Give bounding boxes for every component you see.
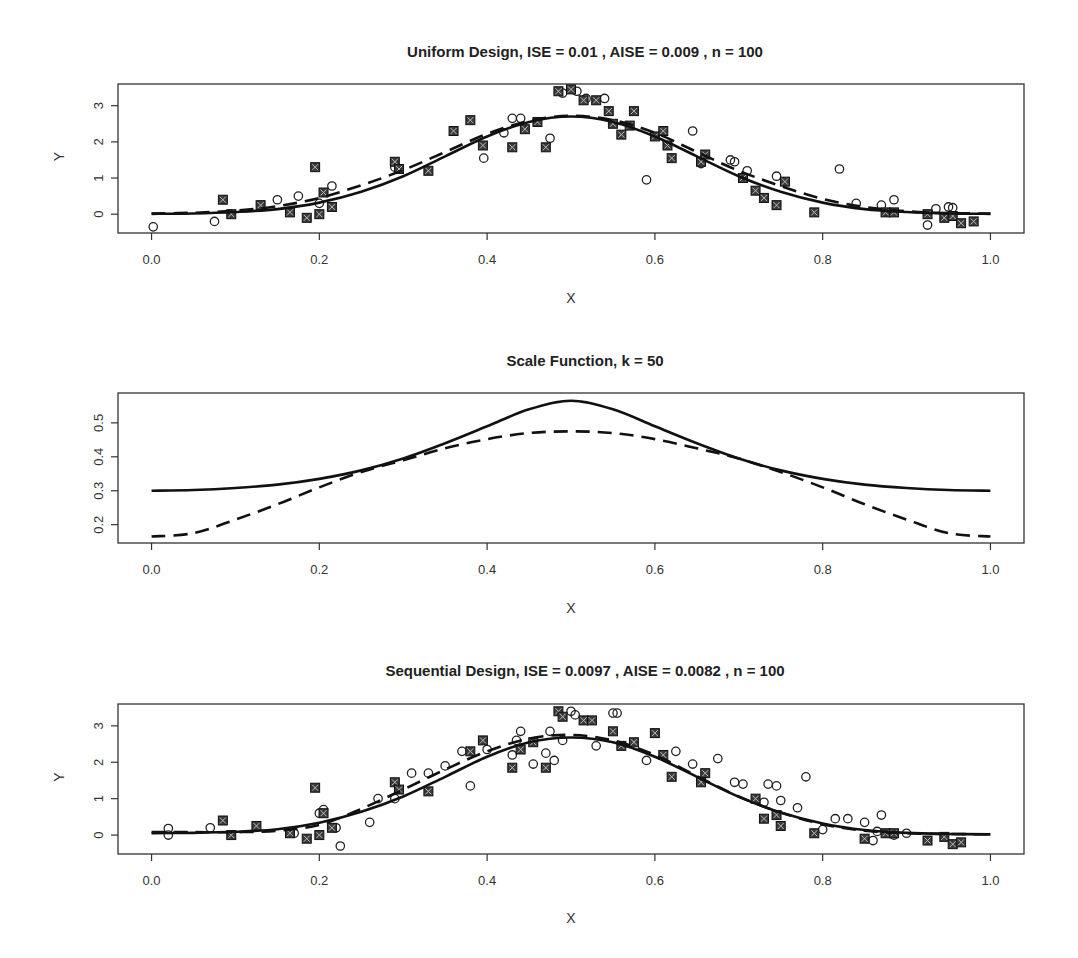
circle-marker-icon	[480, 154, 488, 162]
square-x-marker-icon	[554, 87, 563, 96]
square-x-marker-icon	[969, 217, 978, 226]
square-x-marker-icon	[252, 821, 261, 830]
x-tick-label: 0.2	[310, 562, 328, 577]
square-x-marker-icon	[508, 763, 517, 772]
square-x-marker-icon	[860, 834, 869, 843]
square-x-marker-icon	[311, 783, 320, 792]
circle-marker-icon	[328, 182, 336, 190]
square-x-marker-icon	[520, 125, 529, 134]
circle-marker-icon	[764, 780, 772, 788]
x-tick-label: 0.8	[814, 873, 832, 888]
x-tick-label: 0.0	[143, 562, 161, 577]
square-x-marker-icon	[957, 838, 966, 847]
circle-marker-icon	[273, 196, 281, 204]
square-x-marker-icon	[302, 213, 311, 222]
panel-scale-function: Scale Function, k = 500.00.20.40.60.81.0…	[91, 352, 1024, 616]
panel-uniform-design: Uniform Design, ISE = 0.01 , AISE = 0.00…	[51, 43, 1024, 306]
circle-marker-icon	[844, 814, 852, 822]
square-x-marker-icon	[327, 823, 336, 832]
y-tick-label: 0	[91, 211, 106, 218]
square-x-marker-icon	[659, 127, 668, 136]
x-tick-label: 0.6	[646, 873, 664, 888]
y-axis: 0.20.30.40.5	[91, 414, 118, 534]
y-tick-label: 0.5	[91, 414, 106, 432]
y-axis-label: Y	[51, 151, 67, 161]
square-x-marker-icon	[810, 829, 819, 838]
square-x-marker-icon	[629, 738, 638, 747]
x-axis-label: X	[566, 600, 576, 616]
square-x-marker-icon	[629, 107, 638, 116]
circle-marker-icon	[818, 825, 826, 833]
square-x-marker-icon	[759, 814, 768, 823]
square-x-marker-icon	[466, 747, 475, 756]
circle-marker-icon	[458, 747, 466, 755]
circle-marker-icon	[688, 127, 696, 135]
square-x-marker-icon	[302, 834, 311, 843]
circle-marker-icon	[793, 804, 801, 812]
square-x-marker-icon	[466, 116, 475, 125]
plot-frame	[118, 393, 1024, 543]
square-x-marker-icon	[541, 143, 550, 152]
circle-marker-icon	[550, 756, 558, 764]
circle-marker-icon	[407, 769, 415, 777]
circle-marker-icon	[772, 172, 780, 180]
circle-marker-icon	[714, 754, 722, 762]
square-x-marker-icon	[315, 210, 324, 219]
y-axis: 0123	[91, 102, 118, 218]
circle-marker-icon	[365, 818, 373, 826]
plot-title: Scale Function, k = 50	[506, 352, 663, 369]
circle-marker-icon	[877, 811, 885, 819]
square-x-marker-icon	[701, 769, 710, 778]
square-x-marker-icon	[319, 809, 328, 818]
square-x-marker-icon	[218, 195, 227, 204]
x-tick-label: 0.2	[310, 252, 328, 267]
square-x-marker-icon	[780, 177, 789, 186]
circle-marker-icon	[642, 756, 650, 764]
square-x-marker-icon	[579, 96, 588, 105]
circle-marker-icon	[777, 796, 785, 804]
circle-marker-icon	[642, 176, 650, 184]
x-axis-label: X	[566, 290, 576, 306]
square-x-marker-icon	[776, 821, 785, 830]
square-x-marker-icon	[218, 816, 227, 825]
square-x-marker-icon	[810, 208, 819, 217]
square-x-marker-icon	[772, 201, 781, 210]
solid-curve	[152, 117, 991, 214]
square-x-marker-icon	[948, 840, 957, 849]
dashed-curve	[152, 735, 991, 834]
square-x-marker-icon	[604, 107, 613, 116]
y-tick-label: 3	[91, 722, 106, 729]
circle-marker-icon	[739, 780, 747, 788]
square-x-marker-icon	[957, 219, 966, 228]
y-tick-label: 0	[91, 831, 106, 838]
square-x-points	[218, 85, 978, 228]
y-tick-label: 1	[91, 795, 106, 802]
square-x-marker-icon	[558, 712, 567, 721]
square-x-marker-icon	[587, 716, 596, 725]
square-x-marker-icon	[667, 772, 676, 781]
circle-marker-icon	[546, 134, 554, 142]
circle-marker-icon	[831, 814, 839, 822]
square-x-marker-icon	[478, 736, 487, 745]
circle-marker-icon	[890, 196, 898, 204]
circle-marker-icon	[529, 760, 537, 768]
y-axis: 0123	[91, 722, 118, 838]
x-tick-label: 0.8	[814, 252, 832, 267]
y-tick-label: 1	[91, 174, 106, 181]
square-x-marker-icon	[608, 727, 617, 736]
circle-marker-icon	[835, 165, 843, 173]
y-axis-label: Y	[51, 772, 67, 782]
square-x-marker-icon	[759, 193, 768, 202]
x-tick-label: 0.6	[646, 252, 664, 267]
y-tick-label: 0.2	[91, 516, 106, 534]
x-axis: 0.00.20.40.60.81.0	[143, 854, 1000, 888]
circle-marker-icon	[294, 192, 302, 200]
circle-marker-icon	[516, 727, 524, 735]
circle-marker-icon	[336, 842, 344, 850]
square-x-marker-icon	[881, 208, 890, 217]
figure: Uniform Design, ISE = 0.01 , AISE = 0.00…	[0, 0, 1078, 958]
square-x-marker-icon	[315, 831, 324, 840]
circle-marker-icon	[592, 742, 600, 750]
x-tick-label: 1.0	[981, 562, 999, 577]
circle-marker-icon	[508, 751, 516, 759]
